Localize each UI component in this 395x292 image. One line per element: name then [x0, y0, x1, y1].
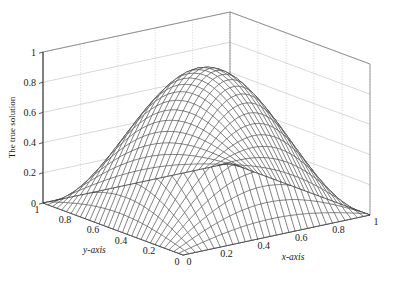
svg-text:0.6: 0.6 [24, 107, 37, 118]
svg-text:0.6: 0.6 [87, 224, 100, 235]
svg-text:0: 0 [175, 256, 180, 267]
svg-text:1: 1 [35, 204, 40, 215]
svg-text:0.4: 0.4 [258, 240, 271, 251]
svg-text:0.8: 0.8 [332, 224, 345, 235]
svg-text:0.8: 0.8 [59, 214, 72, 225]
svg-text:The true solution: The true solution [7, 96, 17, 158]
surface-plot-figure: 00.20.40.60.8100.20.40.60.8100.20.40.60.… [0, 0, 395, 292]
svg-text:0.8: 0.8 [24, 77, 37, 88]
svg-text:1: 1 [31, 47, 36, 58]
svg-text:1: 1 [374, 216, 379, 227]
svg-text:0: 0 [187, 256, 192, 267]
svg-text:x-axis: x-axis [281, 252, 305, 262]
svg-text:0.4: 0.4 [24, 137, 37, 148]
plot-canvas: 00.20.40.60.8100.20.40.60.8100.20.40.60.… [0, 0, 395, 292]
svg-text:0.4: 0.4 [115, 235, 128, 246]
svg-text:0.2: 0.2 [220, 248, 233, 259]
svg-text:y-axis: y-axis [82, 245, 106, 255]
svg-text:0.2: 0.2 [24, 167, 37, 178]
svg-text:0.6: 0.6 [295, 232, 308, 243]
svg-text:0.2: 0.2 [143, 245, 156, 256]
